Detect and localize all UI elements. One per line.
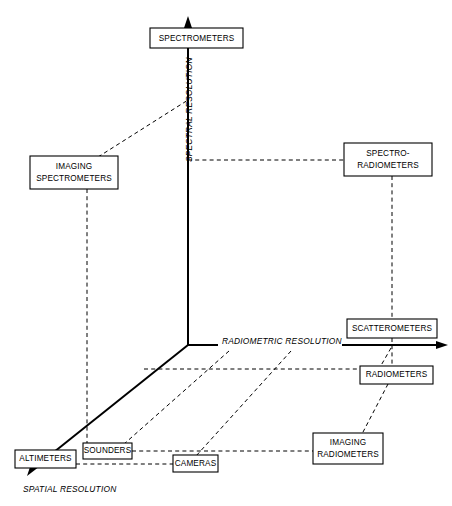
node-spectro-radiometers-label-line1: SPECTRO- [366,149,410,158]
node-cameras[interactable]: CAMERAS [173,455,218,472]
node-spectro-radiometers-label-line2: RADIOMETERS [357,161,419,170]
spatial-axis-label: SPATIAL RESOLUTION [23,484,117,494]
resolution-cube-diagram: SPECTRAL RESOLUTION RADIOMETRIC RESOLUTI… [0,0,452,506]
node-cameras-label: CAMERAS [175,459,217,468]
node-spectro-radiometers[interactable]: SPECTRO- RADIOMETERS [344,143,432,176]
dash-imaging-spectrometers-to-spectral-axis [98,100,188,157]
node-radiometers-label: RADIOMETERS [366,370,428,379]
node-spectro-radiometers-box[interactable] [344,143,432,176]
node-imaging-spectrometers[interactable]: IMAGING SPECTROMETERS [30,156,118,189]
node-imaging-radiometers[interactable]: IMAGING RADIOMETERS [313,433,383,464]
node-spectrometers-label: SPECTROMETERS [159,34,235,43]
node-imaging-radiometers-label-line1: IMAGING [330,438,367,447]
node-imaging-radiometers-label-line2: RADIOMETERS [317,450,379,459]
radiometric-axis-label: RADIOMETRIC RESOLUTION [222,336,343,346]
node-altimeters-label: ALTIMETERS [19,454,72,463]
dash-radiometers-to-imaging-radiometers [362,384,388,434]
dash-diagonal-cameras [196,351,291,456]
node-scatterometers[interactable]: SCATTEROMETERS [347,319,437,338]
node-scatterometers-label: SCATTEROMETERS [352,324,433,333]
spectral-axis-arrow-icon [184,16,192,28]
node-sounders[interactable]: SOUNDERS [83,443,132,459]
node-sounders-label: SOUNDERS [84,446,132,455]
node-imaging-spectrometers-box[interactable] [30,156,118,189]
node-altimeters[interactable]: ALTIMETERS [15,450,76,468]
radiometric-axis-arrow-icon [436,341,448,349]
node-radiometers[interactable]: RADIOMETERS [360,366,433,384]
node-imaging-spectrometers-label-line2: SPECTROMETERS [36,174,112,183]
node-spectrometers[interactable]: SPECTROMETERS [150,28,243,48]
spectral-axis-label: SPECTRAL RESOLUTION [184,57,194,162]
node-imaging-spectrometers-label-line1: IMAGING [56,162,93,171]
